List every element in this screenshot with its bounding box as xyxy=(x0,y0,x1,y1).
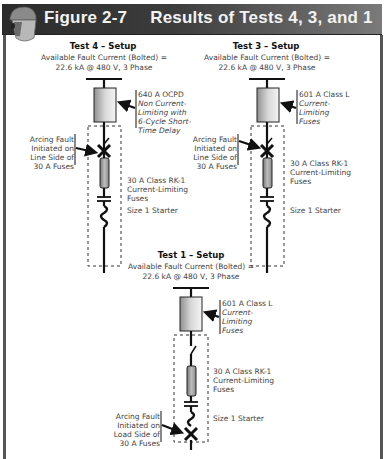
test3-fault-label-1: Arcing Fault xyxy=(193,135,237,144)
test1-title: Test 1 – Setup xyxy=(158,250,225,260)
test1-fault-label-3: Load Side of xyxy=(114,430,161,439)
test4-ocpd-label-3: Limiting with xyxy=(138,108,187,117)
test3-ocpd-label-3: Limiting xyxy=(299,108,329,117)
test1-disconnect-switch xyxy=(191,346,196,354)
test4-source-line1: Available Fault Current (Bolted) = xyxy=(41,53,167,62)
test4-ocpd-label-5: Time Delay xyxy=(138,126,181,135)
test3-starter-label: Size 1 Starter xyxy=(290,206,342,215)
test1-diagram: Test 1 – Setup Available Fault Current (… xyxy=(114,250,275,450)
test3-ocpd-label-2: Current- xyxy=(299,99,330,108)
test4-starter-label: Size 1 Starter xyxy=(127,206,179,215)
test1-starter-label: Size 1 Starter xyxy=(213,414,265,423)
test4-fault-label-1: Arcing Fault xyxy=(30,135,74,144)
test4-fuse-label-3: Fuses xyxy=(127,194,148,203)
test3-source-line2: 22.6 kA @ 480 V, 3 Phase xyxy=(219,63,316,72)
test3-fault-label-3: Line Side of xyxy=(193,153,237,162)
test1-fault-arrow xyxy=(162,425,180,432)
test3-class-l-fuse-box xyxy=(257,88,279,122)
test1-class-l-fuse-box xyxy=(180,297,202,331)
test1-ocpd-label-4: Fuses xyxy=(222,326,243,335)
test3-diagram: Test 3 – Setup Available Fault Current (… xyxy=(193,41,351,273)
test3-ocpd-label-4: Fuses xyxy=(299,117,320,126)
test3-overload-heater xyxy=(264,206,270,227)
test1-arcing-fault-marker xyxy=(185,428,197,440)
test1-fuse-label-1: 30 A Class RK-1 xyxy=(213,367,272,376)
test4-rk1-fuse xyxy=(100,158,109,188)
test4-fault-label-4: 30 A Fuses xyxy=(33,162,74,171)
test4-ocpd-arrow xyxy=(121,103,135,108)
test4-fault-label-2: Initiated on xyxy=(31,144,74,153)
test4-diagram: Test 4 – Setup Available Fault Current (… xyxy=(30,41,192,273)
test1-ocpd-label-2: Current- xyxy=(222,308,253,317)
test1-fuse-label-2: Current-Limiting xyxy=(213,376,274,385)
test4-overload-heater xyxy=(101,206,107,227)
test3-fuse-label-3: Fuses xyxy=(290,177,311,186)
test4-ocpd-label-4: 6-Cycle Short- xyxy=(138,117,191,126)
test1-overload-heater xyxy=(188,412,194,426)
one-line-diagrams: Test 4 – Setup Available Fault Current (… xyxy=(0,0,387,459)
test3-fault-label-2: Initiated on xyxy=(194,144,237,153)
test1-fault-label-2: Initiated on xyxy=(117,421,160,430)
test3-fault-arrow xyxy=(239,141,257,147)
test4-ocpd-label-2: Non Current- xyxy=(138,99,187,108)
test4-title: Test 4 – Setup xyxy=(70,41,137,51)
test1-rk1-fuse xyxy=(187,366,196,396)
test3-fuse-label-1: 30 A Class RK-1 xyxy=(290,159,349,168)
test4-fault-label-3: Line Side of xyxy=(30,153,74,162)
test3-fuse-label-2: Current-Limiting xyxy=(290,168,351,177)
test1-source-line1: Available Fault Current (Bolted) = xyxy=(128,262,254,271)
test1-ocpd-label-1: 601 A Class L xyxy=(222,299,273,308)
test3-ocpd-arrow xyxy=(284,104,296,108)
test1-fuse-label-3: Fuses xyxy=(213,385,234,394)
test4-fuse-label-2: Current-Limiting xyxy=(127,185,188,194)
test1-ocpd-label-3: Limiting xyxy=(222,317,252,326)
test3-ocpd-label-1: 601 A Class L xyxy=(299,90,350,99)
test3-source-line1: Available Fault Current (Bolted) = xyxy=(204,53,330,62)
test1-source-line2: 22.6 kA @ 480 V, 3 Phase xyxy=(143,272,240,281)
test1-ocpd-arrow xyxy=(207,313,219,317)
test3-title: Test 3 – Setup xyxy=(233,41,300,51)
test4-source-line2: 22.6 kA @ 480 V, 3 Phase xyxy=(56,63,153,72)
test4-fault-arrow xyxy=(76,148,94,152)
test4-ocpd-label-1: 640 A OCPD xyxy=(138,90,184,99)
test1-fault-label-4: 30 A Fuses xyxy=(119,439,160,448)
test3-rk1-fuse xyxy=(263,158,272,188)
test4-fuse-label-1: 30 A Class RK-1 xyxy=(127,176,186,185)
test4-ocpd-box xyxy=(94,88,116,122)
test1-fault-label-1: Arcing Fault xyxy=(116,412,160,421)
test3-fault-label-4: 30 A Fuses xyxy=(196,162,237,171)
